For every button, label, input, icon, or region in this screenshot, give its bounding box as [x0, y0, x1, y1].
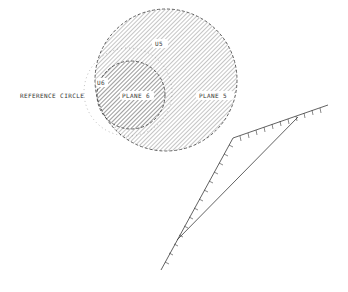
label-us-top: U5: [155, 40, 163, 47]
label-plane-5: PLANE 5: [199, 92, 227, 99]
label-us-left: U6: [97, 79, 105, 86]
label-plane-6: PLANE 6: [122, 92, 150, 99]
label-reference-circle: REFERENCE CIRCLE: [20, 92, 84, 99]
diagram-canvas: U5 PLANE 6 PLANE 5 U6 REFERENCE CIRCLE: [0, 0, 348, 292]
